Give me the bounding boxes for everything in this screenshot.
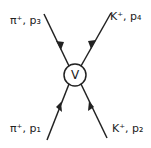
line-p1 — [47, 84, 69, 140]
label-p4: K⁺, p₄ — [110, 10, 141, 23]
line-p3 — [44, 14, 69, 66]
vertex-label: V — [64, 64, 86, 86]
line-p4 — [81, 13, 111, 66]
label-p2: K⁺, p₂ — [112, 122, 143, 135]
line-p2 — [81, 84, 107, 138]
label-p3: π⁺, p₃ — [10, 14, 41, 27]
label-p1: π⁺, p₁ — [10, 122, 41, 135]
